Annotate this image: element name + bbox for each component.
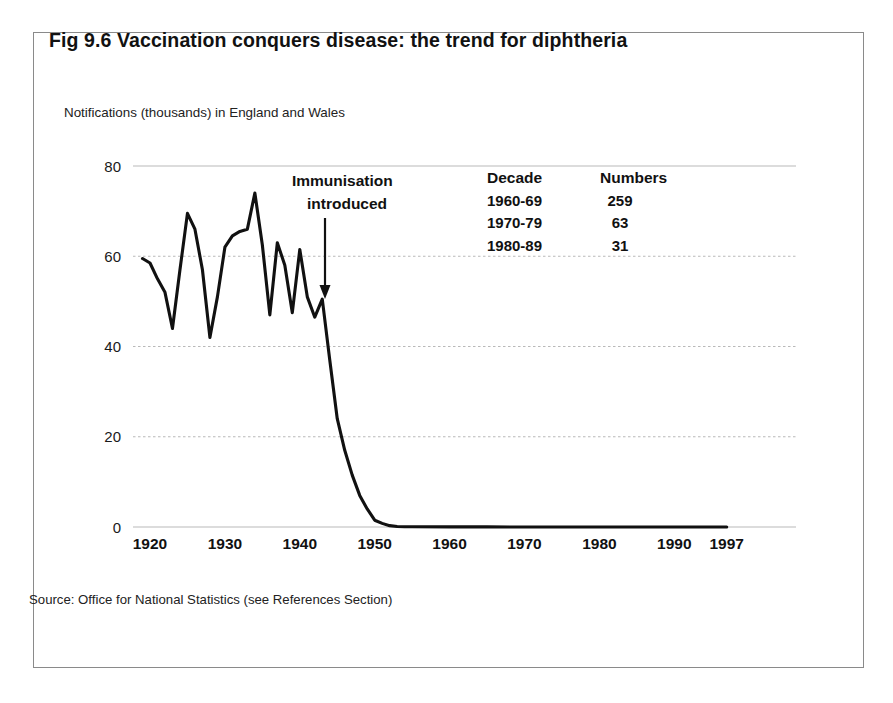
table-cell-decade: 1980-89 <box>487 237 542 254</box>
table-header-numbers: Numbers <box>600 169 667 186</box>
table-cell-decade: 1960-69 <box>487 192 542 209</box>
x-tick-1940: 1940 <box>283 535 317 552</box>
y-tick-60: 60 <box>104 248 121 265</box>
figure-page: Fig 9.6 Vaccination conquers disease: th… <box>0 0 893 703</box>
table-cell-numbers: 31 <box>612 237 629 254</box>
series-line-diphtheria <box>143 193 727 527</box>
y-axis-tick-labels: 020406080 <box>104 158 121 536</box>
x-tick-1970: 1970 <box>507 535 541 552</box>
table-cell-decade: 1970-79 <box>487 214 542 231</box>
arrow-down-icon <box>320 285 331 299</box>
y-tick-0: 0 <box>113 519 121 536</box>
x-axis-tick-labels: 192019301940195019601970198019901997 <box>133 535 744 552</box>
x-tick-1980: 1980 <box>582 535 616 552</box>
table-cell-numbers: 63 <box>612 214 629 231</box>
y-tick-40: 40 <box>104 338 121 355</box>
x-tick-1997: 1997 <box>709 535 743 552</box>
x-tick-1960: 1960 <box>432 535 466 552</box>
x-tick-1930: 1930 <box>208 535 242 552</box>
table-header-decade: Decade <box>487 169 543 186</box>
immunisation-annotation: Immunisation introduced <box>292 172 393 299</box>
annotation-line-2: introduced <box>307 195 387 212</box>
x-tick-1950: 1950 <box>357 535 391 552</box>
y-tick-80: 80 <box>104 158 121 175</box>
x-tick-1920: 1920 <box>133 535 167 552</box>
annotation-line-1: Immunisation <box>292 172 393 189</box>
table-cell-numbers: 259 <box>607 192 632 209</box>
gridlines <box>133 166 796 527</box>
source-note: Source: Office for National Statistics (… <box>29 592 392 607</box>
y-tick-20: 20 <box>104 428 121 445</box>
decade-numbers-table: DecadeNumbers1960-692591970-79631980-893… <box>487 169 667 254</box>
x-tick-1990: 1990 <box>657 535 691 552</box>
